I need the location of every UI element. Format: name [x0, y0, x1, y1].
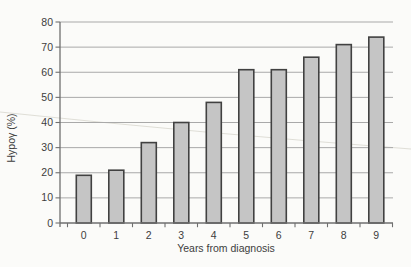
bar-chart-figure: 01020304050607080 0123456789 Years from … — [0, 0, 411, 267]
bar — [336, 45, 351, 223]
x-tick-label: 0 — [81, 229, 87, 241]
bar — [271, 70, 286, 223]
y-tick-label: 40 — [41, 116, 53, 128]
y-tick-labels: 01020304050607080 — [41, 16, 53, 229]
x-tick-label: 6 — [276, 229, 282, 241]
bar — [141, 143, 156, 223]
bar — [369, 37, 384, 223]
y-axis-ticks — [56, 22, 61, 223]
bars — [76, 37, 384, 223]
bar — [206, 102, 221, 223]
y-tick-label: 70 — [41, 41, 53, 53]
y-axis-title: Hypoγ (%) — [5, 113, 17, 162]
bar — [239, 70, 254, 223]
y-tick-label: 30 — [41, 141, 53, 153]
x-tick-label: 4 — [211, 229, 217, 241]
y-tick-label: 10 — [41, 191, 53, 203]
bar — [109, 170, 124, 223]
x-tick-label: 9 — [373, 229, 379, 241]
y-tick-label: 50 — [41, 91, 53, 103]
x-tick-label: 5 — [243, 229, 249, 241]
y-tick-label: 80 — [41, 16, 53, 28]
bar — [76, 175, 91, 223]
bar — [174, 123, 189, 224]
bar — [304, 57, 319, 223]
y-tick-label: 60 — [41, 66, 53, 78]
y-tick-label: 0 — [47, 217, 53, 229]
y-tick-label: 20 — [41, 166, 53, 178]
x-tick-label: 7 — [308, 229, 314, 241]
x-tick-label: 8 — [341, 229, 347, 241]
x-tick-label: 2 — [146, 229, 152, 241]
x-tick-label: 1 — [113, 229, 119, 241]
x-axis-title: Years from diagnosis — [177, 242, 275, 254]
x-tick-label: 3 — [178, 229, 184, 241]
bar-chart: 01020304050607080 0123456789 Years from … — [0, 0, 411, 267]
x-tick-labels: 0123456789 — [81, 229, 380, 241]
